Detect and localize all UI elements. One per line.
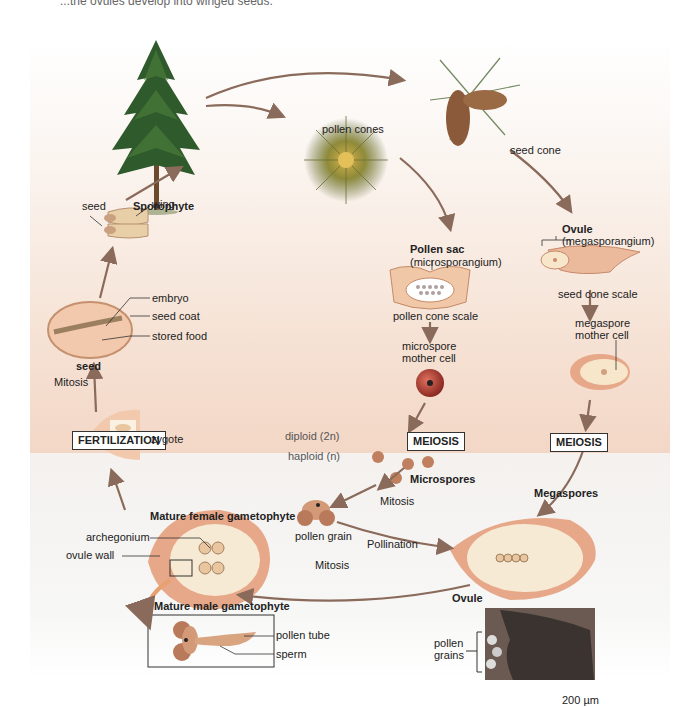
label-mature-male-gametophyte: Mature male gametophyte: [154, 600, 290, 613]
label-microspores: Microspores: [410, 473, 475, 486]
label-archegonium: archegonium: [86, 531, 150, 544]
label-seed-bold: seed: [76, 360, 101, 373]
label-haploid: haploid (n): [288, 450, 340, 463]
label-megaspore-mother-cell-2: mother cell: [575, 329, 629, 342]
label-stored-food: stored food: [152, 330, 207, 343]
label-sperm: sperm: [276, 648, 307, 661]
label-diploid: diploid (2n): [285, 430, 339, 443]
figure-caption-fragment: ...the ovules develop into winged seeds.: [60, 0, 620, 8]
label-ovule-bottom: Ovule: [452, 592, 483, 605]
meiosis-left-box: MEIOSIS: [407, 432, 465, 451]
pollen-sac-icon: [390, 266, 470, 309]
label-microspore-mother-cell-2: mother cell: [402, 352, 456, 365]
scale-bar-label: 200 µm: [562, 694, 599, 707]
label-embryo: embryo: [152, 292, 189, 305]
label-mitosis-left: Mitosis: [54, 376, 88, 389]
label-megaspores: Megaspores: [534, 487, 598, 500]
megaspore-mother-cell-ovule-icon: [570, 354, 630, 390]
diagram-artwork: [30, 40, 670, 680]
label-zygote: zygote: [151, 433, 183, 446]
label-mature-female-gametophyte: Mature female gametophyte: [150, 510, 295, 523]
label-megasporangium: (megasporangium): [562, 235, 654, 248]
pollen-grain-icon: [297, 500, 335, 526]
label-seed-cone-scale: seed cone scale: [558, 288, 638, 301]
label-pollen-cones: pollen cones: [322, 123, 384, 136]
label-mitosis-bottom: Mitosis: [315, 559, 349, 572]
label-seed-cone: seed cone: [510, 144, 561, 157]
seed-cone-icon: [430, 58, 520, 146]
pollen-micrograph-image: [485, 608, 595, 680]
label-pollination: Pollination: [367, 538, 418, 551]
label-pollen-grains-2: grains: [434, 649, 464, 662]
mature-female-gametophyte-icon: [148, 510, 270, 610]
label-pollen-grain: pollen grain: [295, 530, 352, 543]
meiosis-right-box: MEIOSIS: [550, 433, 608, 452]
sporophyte-tree-icon: [112, 40, 200, 215]
label-pollen-cone-scale: pollen cone scale: [393, 310, 478, 323]
megaspores-ovule-icon: [450, 518, 596, 600]
label-pollen-sac: Pollen sac: [410, 243, 464, 256]
label-seed-small: seed: [82, 200, 106, 213]
mature-male-gametophyte-icon: [173, 621, 256, 661]
label-pollen-tube: pollen tube: [276, 629, 330, 642]
label-wing: wing: [152, 198, 175, 211]
pine-life-cycle-diagram: Sporophyte pollen cones seed cone Pollen…: [30, 40, 670, 680]
label-ovule-wall: ovule wall: [66, 549, 114, 562]
label-mitosis-pollen: Mitosis: [380, 495, 414, 508]
label-microsporangium: (microsporangium): [410, 256, 502, 269]
ovule-on-scale-icon: [541, 245, 640, 273]
label-seed-coat: seed coat: [152, 310, 200, 323]
